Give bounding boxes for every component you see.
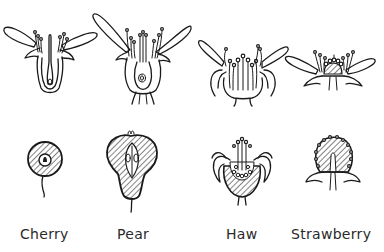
cherry-flower-section: [4, 27, 97, 92]
strawberry-fruit-section: [306, 136, 360, 190]
label-haw: Haw: [226, 226, 257, 242]
pear-flower-section: [93, 14, 191, 104]
strawberry-flower-section: [285, 51, 375, 90]
label-strawberry: Strawberry: [291, 226, 371, 242]
cherry-fruit-section: [28, 142, 62, 197]
pear-fruit-section: [107, 131, 157, 212]
botanical-figure: [0, 0, 384, 252]
label-cherry: Cherry: [20, 226, 69, 242]
label-pear: Pear: [117, 226, 149, 242]
haw-flower-section: [199, 41, 289, 106]
haw-fruit-section: [212, 137, 272, 205]
